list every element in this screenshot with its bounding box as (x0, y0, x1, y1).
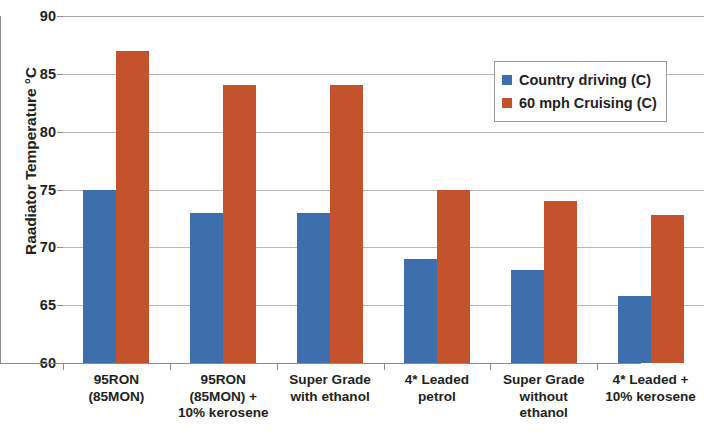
gridline (63, 247, 704, 248)
y-axis-tickmark (57, 74, 63, 75)
gridline (63, 16, 704, 17)
y-axis-tickmark (57, 247, 63, 248)
x-axis-tickmark (170, 364, 171, 370)
x-axis-tickmark (490, 364, 491, 370)
x-axis-category-label-line: Super Grade (277, 372, 384, 389)
bar-chart: Raadiator Temperature °C 90858075706560 … (0, 0, 704, 435)
x-axis-category-label-line: 4* Leaded + (597, 372, 704, 389)
x-axis-tickmark (63, 364, 64, 370)
legend-swatch-icon (502, 75, 512, 85)
gridline (63, 132, 704, 133)
x-axis-category-label: 95RON(85MON) (63, 372, 170, 405)
y-axis-tick-label: 80 (18, 124, 56, 140)
legend-swatch-icon (502, 98, 512, 108)
x-axis-category-label-line: 10% kerosene (597, 389, 704, 406)
bar (511, 270, 544, 363)
y-axis-tickmark (57, 16, 63, 17)
y-axis-tickmark (57, 190, 63, 191)
y-axis-tick-label: 90 (18, 8, 56, 24)
x-axis-category-label: 4* Leadedpetrol (384, 372, 491, 405)
y-axis-tick-label: 75 (18, 182, 56, 198)
y-axis-tick-labels: 90858075706560 (0, 0, 56, 435)
legend-label: 60 mph Cruising (C) (519, 95, 657, 111)
bar (437, 190, 470, 364)
bar (223, 85, 256, 363)
x-axis-category-label-line: petrol (384, 389, 491, 406)
y-axis-tickmark (57, 305, 63, 306)
bar (116, 51, 149, 363)
x-axis-category-label-line: ethanol (490, 405, 597, 422)
bar (404, 259, 437, 363)
x-axis-category-label-line: (85MON) (63, 389, 170, 406)
y-axis-tickmark (57, 132, 63, 133)
gridline (63, 190, 704, 191)
gridline (63, 305, 704, 306)
x-axis-category-label: 4* Leaded +10% kerosene (597, 372, 704, 405)
y-axis-line (0, 16, 1, 364)
x-axis-category-label-line: 10% kerosene (170, 405, 277, 422)
x-axis-category-label-line: (85MON) + (170, 389, 277, 406)
x-axis-tickmarks (63, 364, 704, 372)
x-axis-category-label-line: without (490, 389, 597, 406)
x-axis-category-label-line: Super Grade (490, 372, 597, 389)
legend-entry: Country driving (C) (502, 68, 657, 91)
x-axis-tickmark (597, 364, 598, 370)
x-axis-category-label-line: 4* Leaded (384, 372, 491, 389)
legend-label: Country driving (C) (519, 72, 651, 88)
bar (651, 215, 684, 363)
x-axis-category-label: 95RON(85MON) +10% kerosene (170, 372, 277, 422)
x-axis-category-labels: 95RON(85MON)95RON(85MON) +10% keroseneSu… (63, 372, 704, 435)
bar (544, 201, 577, 363)
x-axis-category-label: Super Gradewith ethanol (277, 372, 384, 405)
x-axis-category-label-line: 95RON (63, 372, 170, 389)
x-axis-category-label-line: 95RON (170, 372, 277, 389)
y-axis-tick-label: 85 (18, 66, 56, 82)
bar (618, 296, 651, 363)
y-axis-tick-label: 70 (18, 239, 56, 255)
bar (297, 213, 330, 363)
bar (330, 85, 363, 363)
y-axis-tick-label: 65 (18, 297, 56, 313)
bar (190, 213, 223, 363)
legend-entry: 60 mph Cruising (C) (502, 91, 657, 114)
bar (83, 190, 116, 364)
x-axis-category-label-line: with ethanol (277, 389, 384, 406)
x-axis-tickmark (384, 364, 385, 370)
x-axis-category-label: Super Gradewithoutethanol (490, 372, 597, 422)
chart-legend: Country driving (C)60 mph Cruising (C) (494, 61, 667, 122)
x-axis-tickmark (277, 364, 278, 370)
